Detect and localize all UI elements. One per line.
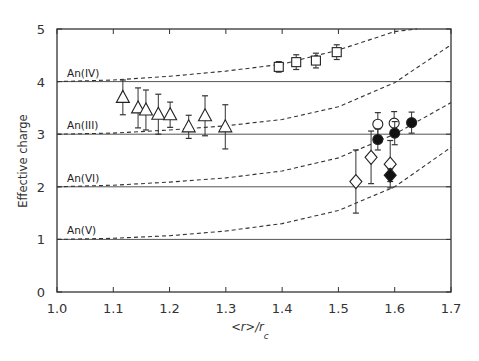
x-axis-title: <r>/rc	[231, 320, 269, 341]
open-square-point	[332, 45, 341, 60]
curve-label: An(IV)	[67, 67, 99, 79]
open-square-point	[292, 55, 301, 70]
y-tick-label: 3	[37, 127, 45, 142]
open-square-point	[311, 53, 320, 68]
x-tick-label: 1.3	[216, 301, 237, 316]
data-points	[116, 45, 416, 213]
square-marker	[274, 62, 283, 71]
curve-label: An(V)	[67, 224, 96, 236]
effective-charge-chart: An(IV)An(III)An(VI)An(V) 1.01.11.21.31.4…	[0, 0, 479, 361]
square-marker	[311, 56, 320, 65]
x-tick-label: 1.2	[159, 301, 180, 316]
circle-marker	[373, 134, 383, 144]
curve-label: An(VI)	[67, 172, 99, 184]
triangle-marker	[152, 107, 165, 119]
open-triangle-point	[164, 102, 177, 127]
y-tick-label: 4	[37, 75, 45, 90]
open-triangle-point	[132, 88, 145, 128]
open-diamond-point	[350, 150, 362, 213]
filled-circle-point	[373, 129, 383, 150]
filled-diamond-point	[384, 168, 396, 182]
x-tick-label: 1.7	[441, 301, 462, 316]
square-marker	[332, 48, 341, 57]
x-tick-label: 1.1	[103, 301, 124, 316]
open-triangle-point	[152, 94, 165, 134]
y-axis-title: Effective charge	[16, 114, 30, 207]
x-tick-label: 1.5	[328, 301, 349, 316]
square-marker	[292, 58, 301, 67]
circle-marker	[390, 128, 400, 138]
circle-marker	[407, 118, 417, 128]
x-tick-label: 1.6	[384, 301, 405, 316]
filled-circle-point	[407, 112, 417, 133]
diamond-marker	[384, 168, 396, 182]
open-triangle-point	[116, 80, 129, 115]
dashed-curve	[57, 29, 417, 82]
open-triangle-point	[182, 115, 195, 138]
circle-marker	[373, 119, 383, 129]
open-triangle-point	[199, 96, 212, 136]
triangle-marker	[182, 120, 195, 132]
y-tick-label: 2	[37, 180, 45, 195]
diamond-marker	[365, 150, 377, 164]
triangle-marker	[164, 108, 177, 120]
curve-label: An(III)	[67, 119, 98, 131]
axes: 1.01.11.21.31.41.51.61.7012345	[37, 22, 462, 316]
x-tick-label: 1.0	[47, 301, 68, 316]
y-tick-label: 1	[37, 232, 45, 247]
open-square-point	[274, 62, 283, 73]
x-tick-label: 1.4	[272, 301, 293, 316]
y-tick-label: 0	[37, 285, 45, 300]
y-tick-label: 5	[37, 22, 45, 37]
triangle-marker	[116, 90, 129, 102]
triangle-marker	[199, 109, 212, 121]
circle-marker	[389, 118, 399, 128]
open-triangle-point	[219, 105, 232, 149]
